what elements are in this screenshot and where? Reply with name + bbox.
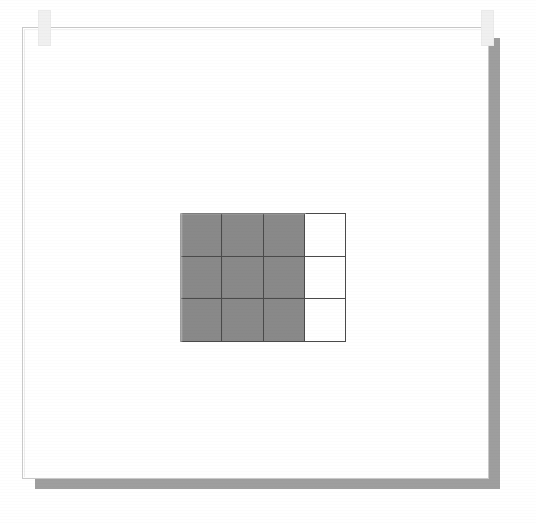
grid-cell-r1c1	[181, 214, 222, 257]
sheet-shadow-right	[489, 38, 500, 489]
grid-cell-r2c3	[263, 256, 304, 299]
grid-row	[181, 256, 346, 299]
grid-cell-r1c3	[263, 214, 304, 257]
grid-cell-r3c3	[263, 299, 304, 342]
fraction-grid-table	[180, 213, 346, 342]
grid-cell-r1c2	[222, 214, 263, 257]
grid-row	[181, 214, 346, 257]
page-canvas	[0, 0, 536, 523]
grid-cell-r3c4	[304, 299, 345, 342]
fraction-grid-figure	[180, 213, 346, 342]
top-right-tab	[481, 10, 494, 46]
fraction-grid-body	[181, 214, 346, 342]
grid-cell-r2c4	[304, 256, 345, 299]
grid-cell-r1c4	[304, 214, 345, 257]
grid-cell-r3c2	[222, 299, 263, 342]
sheet-shadow-bottom	[35, 478, 500, 489]
grid-cell-r2c1	[181, 256, 222, 299]
grid-cell-r3c1	[181, 299, 222, 342]
top-left-tab	[38, 10, 51, 46]
paper-sheet	[22, 27, 489, 479]
grid-row	[181, 299, 346, 342]
grid-cell-r2c2	[222, 256, 263, 299]
